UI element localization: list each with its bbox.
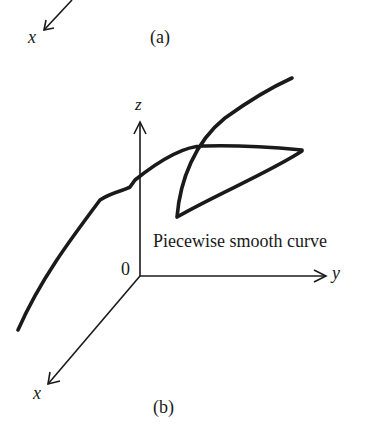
- panel-b-x-label: x: [33, 384, 41, 402]
- y-axis-label: y: [332, 264, 340, 282]
- x-axis: [48, 276, 140, 384]
- panel-a-caption: (a): [150, 28, 170, 46]
- piecewise-smooth-curve: [18, 78, 302, 330]
- panel-b-caption: (b): [153, 398, 174, 416]
- diagram-canvas: [0, 0, 384, 424]
- origin-label: 0: [121, 260, 130, 278]
- panel-a-x-label: x: [28, 28, 36, 46]
- curve-label: Piecewise smooth curve: [153, 232, 327, 250]
- panel-a-x-axis: [44, 0, 72, 30]
- z-axis-label: z: [135, 96, 142, 113]
